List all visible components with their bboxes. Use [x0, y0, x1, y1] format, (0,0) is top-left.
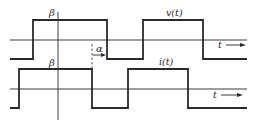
t-arrowhead-top-icon — [240, 43, 246, 47]
beta-label-bottom: β — [48, 57, 55, 68]
waveform-diagram: β β α v(t) i(t) t t — [0, 0, 256, 124]
v-label: v(t) — [166, 7, 183, 18]
alpha-label: α — [96, 43, 103, 54]
i-label: i(t) — [159, 56, 174, 67]
t-arrowhead-bottom-icon — [237, 93, 243, 97]
t-label-bottom: t — [213, 89, 217, 100]
beta-label-top: β — [48, 7, 55, 18]
t-label-top: t — [218, 39, 222, 50]
